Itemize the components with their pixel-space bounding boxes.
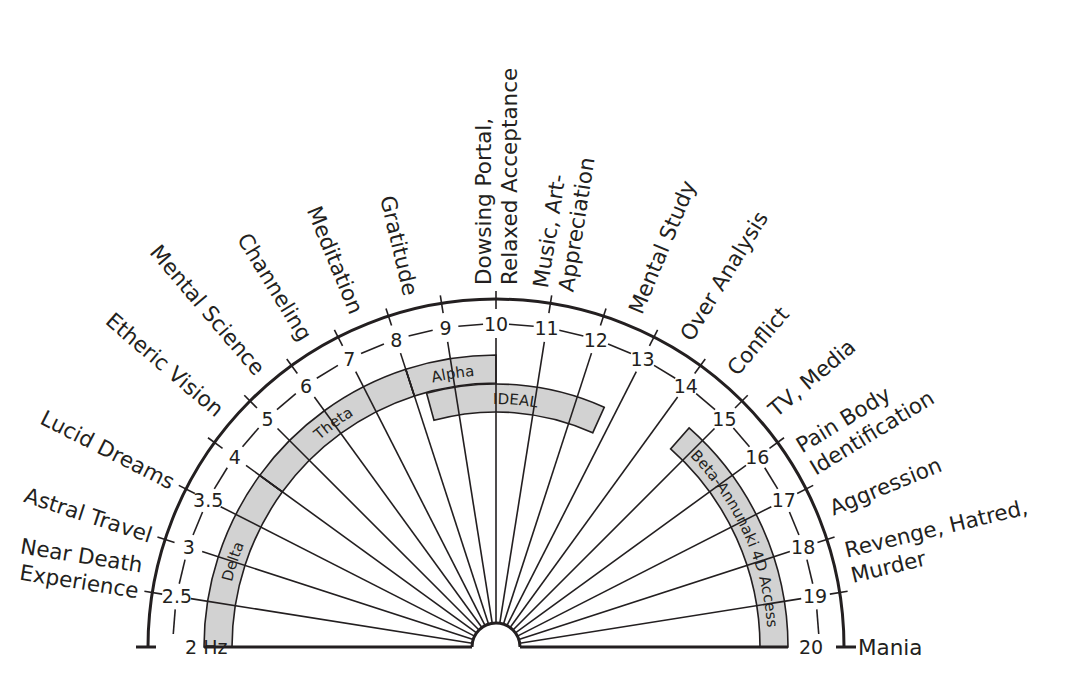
frequency-label: 2 Hz [185,636,227,658]
frequency-label: 5 [262,408,274,430]
scale-dash [193,512,202,535]
scale-dash [458,324,483,326]
svg-text:Mania: Mania [858,635,923,660]
scale-dash [509,324,534,326]
frequency-label: 3.5 [193,489,223,511]
state-label: Near DeathExperience [18,534,144,604]
radial-line [517,507,771,636]
frequency-label: 19 [803,585,827,607]
state-label: Channeling [232,228,317,345]
scale-dash [173,609,175,634]
brainwave-frequency-diagram: DeltaThetaAlphaIDEALBeta-Annunaki 4D Acc… [0,0,1070,681]
radial-line [515,465,746,633]
radial-line [278,429,480,631]
svg-text:Meditation: Meditation [302,202,369,317]
state-label: Meditation [302,202,369,317]
radial-line [246,465,477,633]
frequency-label: 4 [229,446,241,468]
frequency-label: 7 [343,348,355,370]
radial-line [221,507,475,636]
svg-text:Channeling: Channeling [232,228,317,345]
svg-text:Dowsing Portal,: Dowsing Portal, [471,118,496,285]
svg-text:Mental Study: Mental Study [623,177,701,318]
radial-line [314,397,482,628]
state-labels: Near DeathExperienceAstral TravelLucid D… [18,68,1030,660]
frequency-label: 15 [712,408,736,430]
frequency-label: 14 [674,375,698,397]
state-label: Mania [858,635,923,660]
frequency-label: 12 [584,329,608,351]
center-hub [472,623,520,647]
frequency-label: 13 [631,348,655,370]
scale-dash [789,512,798,535]
frequency-label: 3 [183,536,195,558]
svg-text:Conflict: Conflict [722,302,794,380]
scale-dash [807,560,813,584]
frequency-label: 11 [534,317,558,339]
state-label: Dowsing Portal,Relaxed Acceptance [471,68,522,285]
frequency-label: 2.5 [162,585,192,607]
scale-dash [277,394,296,410]
scale-dash [559,330,583,336]
frequency-label: 20 [799,636,823,658]
state-label: Gratitude [375,193,423,298]
frequency-label: 18 [791,536,815,558]
scale-dash [243,428,259,447]
diagram-canvas: DeltaThetaAlphaIDEALBeta-Annunaki 4D Acc… [0,0,1070,681]
scale-dash [654,365,675,378]
svg-text:Relaxed Acceptance: Relaxed Acceptance [497,68,522,285]
radial-line [202,552,473,640]
frequency-label: 9 [439,317,451,339]
state-label: Lucid Dreams [37,405,179,494]
scale-dash [608,344,631,353]
scale-dash [409,330,433,336]
svg-text:Lucid Dreams: Lucid Dreams [37,405,179,494]
radial-line [519,552,790,640]
state-label: Mental Study [623,177,701,318]
frequency-label: 10 [484,313,508,335]
radial-line [513,429,715,631]
frequency-label: 8 [390,329,402,351]
state-label: Revenge, Hatred,Murder [842,494,1030,587]
scale-dash [817,609,819,634]
frequency-label: 6 [300,375,312,397]
state-label: Conflict [722,302,794,380]
scale-dash [214,468,227,489]
scale-dash [361,344,384,353]
scale-dash [317,365,338,378]
state-label: Music, Art-Appreciation [528,156,600,294]
scale-dash [179,560,185,584]
frequency-label: 17 [772,489,796,511]
hub-semicircle [472,623,520,647]
svg-text:Gratitude: Gratitude [375,193,423,298]
frequency-label: 16 [745,446,769,468]
scale-dash [765,468,778,489]
scale-dash [733,428,749,447]
